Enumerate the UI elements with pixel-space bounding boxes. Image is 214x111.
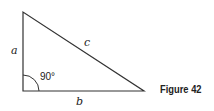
right-angle-arc [23,75,39,91]
side-c-label: c [84,37,90,48]
side-a-label: a [11,45,18,56]
figure-caption: Figure 42 [160,84,202,95]
angle-label: 90° [40,72,55,82]
side-b-label: b [76,96,83,107]
